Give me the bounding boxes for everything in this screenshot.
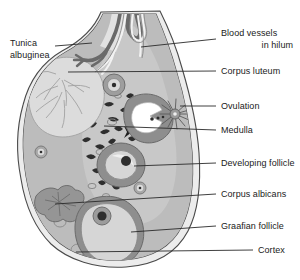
ovary-diagram-canvas: Tunica albuginea Blood vessels in hilum … (0, 0, 300, 280)
ovulation-burst-center (173, 112, 177, 116)
label-blood-vessels-line1: Blood vessels (221, 28, 278, 38)
primordial-follicle-oocyte (112, 83, 116, 87)
label-ovulation: Ovulation (221, 101, 259, 111)
label-cortex: Cortex (258, 245, 285, 255)
label-tunica-albuginea-line2: albuginea (10, 50, 50, 60)
developing-follicle (97, 143, 145, 187)
label-developing-follicle: Developing follicle (221, 158, 295, 168)
small-follicle-right-lower (134, 182, 146, 194)
label-corpus-albicans: Corpus albicans (221, 189, 287, 199)
label-tunica-albuginea-line1: Tunica (10, 38, 37, 48)
ovary-diagram-figure: Tunica albuginea Blood vessels in hilum … (0, 0, 300, 280)
label-blood-vessels-line2: in hilum (262, 40, 293, 50)
primordial-follicle-upper (103, 74, 125, 96)
small-follicle-left (35, 146, 47, 158)
developing-follicle-oocyte (121, 156, 131, 166)
label-medulla: Medulla (221, 125, 253, 135)
graafian-follicle-oocyte (97, 211, 106, 220)
label-graafian-follicle: Graafian follicle (221, 221, 284, 231)
label-corpus-luteum: Corpus luteum (221, 66, 280, 76)
